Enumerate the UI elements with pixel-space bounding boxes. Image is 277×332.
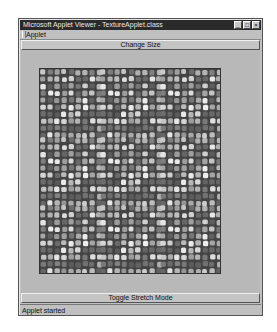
minimize-button[interactable]: _ <box>234 21 242 29</box>
toggle-stretch-mode-button[interactable]: Toggle Stretch Mode <box>21 293 260 303</box>
status-bar: Applet started <box>20 304 261 316</box>
menubar-grip-icon <box>22 31 26 38</box>
texture-image <box>39 68 221 274</box>
applet-canvas <box>21 50 260 293</box>
menu-applet[interactable]: Applet <box>26 31 46 38</box>
applet-viewer-window: Microsoft Applet Viewer - TextureApplet.… <box>18 18 263 316</box>
close-button[interactable]: × <box>252 21 260 29</box>
window-title: Microsoft Applet Viewer - TextureApplet.… <box>23 20 163 30</box>
menu-bar: Applet <box>20 30 261 40</box>
maximize-button[interactable]: □ <box>243 21 251 29</box>
window-controls: _ □ × <box>234 21 260 29</box>
title-bar[interactable]: Microsoft Applet Viewer - TextureApplet.… <box>20 20 261 30</box>
change-size-button[interactable]: Change Size <box>21 40 260 50</box>
